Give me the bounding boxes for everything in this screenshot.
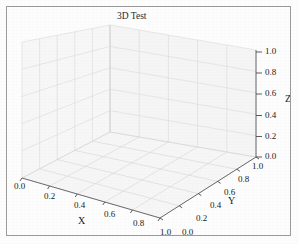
z-tick-label: 0.8 xyxy=(265,68,276,77)
y-tick-label: 1.0 xyxy=(252,162,263,171)
z-tick-label: 0.4 xyxy=(265,111,276,120)
y-tick-label: 0.8 xyxy=(238,175,249,184)
x-tick-label: 1.0 xyxy=(160,228,171,237)
x-tick-label: 0.2 xyxy=(44,192,55,201)
y-tick-label: 0.0 xyxy=(182,228,193,237)
z-tick-label: 0.0 xyxy=(265,152,276,161)
y-tick-label: 0.4 xyxy=(210,201,221,210)
figure-canvas: 3D Test 0.0 0.2 0.4 0.6 0.8 1.0 X 0.0 0.… xyxy=(0,0,299,244)
z-tick-label: 0.2 xyxy=(265,132,276,141)
y-tick-label: 0.2 xyxy=(196,214,207,223)
axes3d-plot xyxy=(0,0,299,244)
y-axis-label: Y xyxy=(228,196,235,206)
z-tick-label: 1.0 xyxy=(265,47,276,56)
z-axis-label: Z xyxy=(285,94,291,104)
x-tick-label: 0.0 xyxy=(14,182,25,191)
page-title: 3D Test xyxy=(117,12,147,22)
x-tick-label: 0.4 xyxy=(74,201,85,210)
x-tick-label: 0.6 xyxy=(104,210,115,219)
x-axis-label: X xyxy=(78,216,85,226)
x-tick-label: 0.8 xyxy=(133,219,144,228)
z-tick-label: 0.6 xyxy=(265,89,276,98)
z-axis-ticks xyxy=(256,52,262,157)
